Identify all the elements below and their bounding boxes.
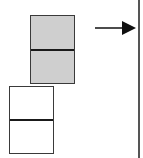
vertical-wall-line xyxy=(138,0,140,158)
arrow-right-icon xyxy=(0,0,143,158)
